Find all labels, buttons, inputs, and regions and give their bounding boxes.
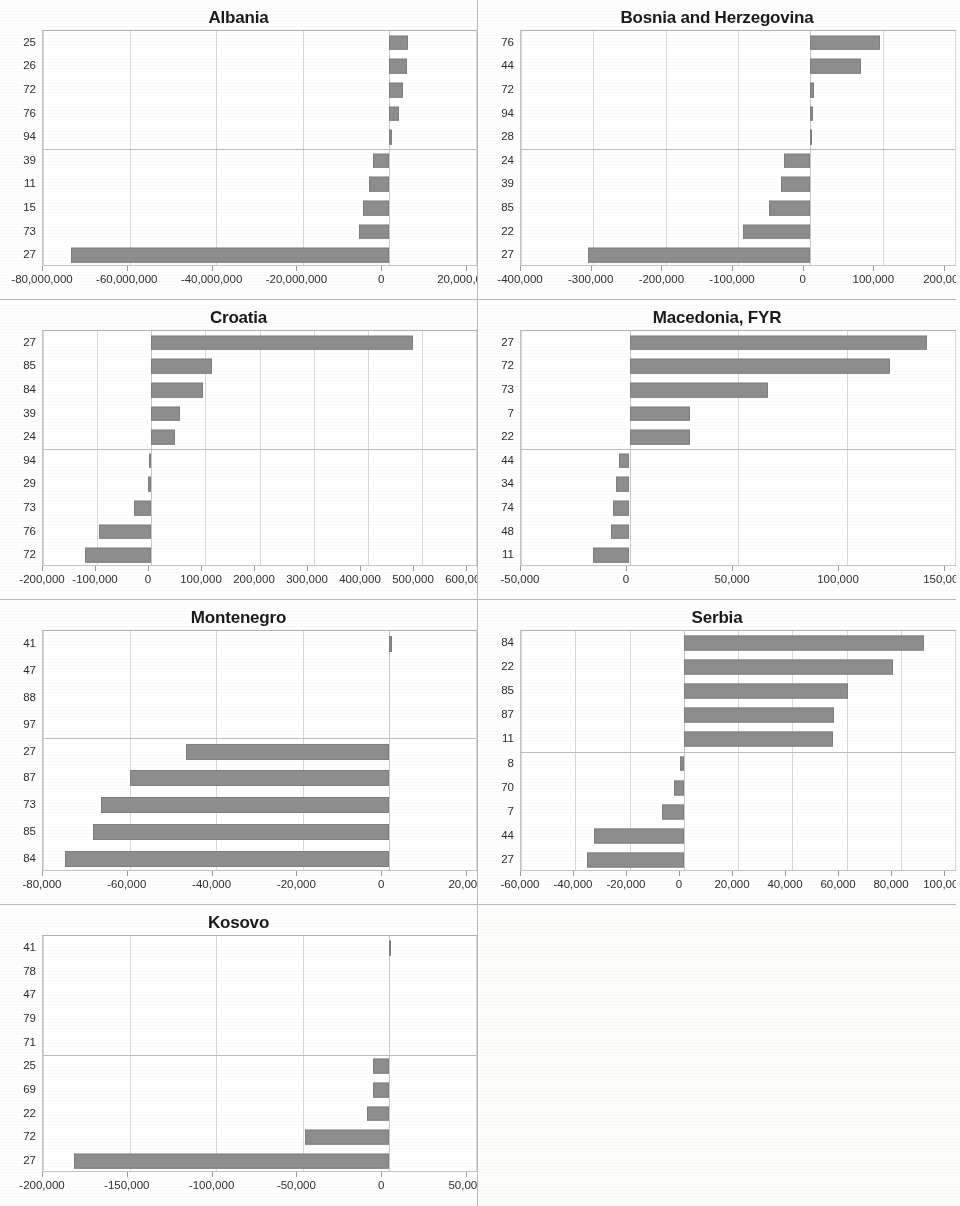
bar bbox=[630, 406, 691, 421]
axis-tick-label: -20,000 bbox=[277, 878, 316, 890]
gridline-vertical bbox=[260, 331, 261, 565]
axis-tick-mark bbox=[591, 266, 592, 271]
bar bbox=[367, 1106, 390, 1121]
bar bbox=[593, 548, 630, 563]
bar bbox=[389, 130, 392, 145]
gridline-vertical bbox=[43, 331, 44, 565]
gridline-vertical bbox=[666, 31, 667, 265]
category-label: 44 bbox=[501, 454, 514, 466]
axis-tick-mark bbox=[944, 566, 945, 571]
axis-tick-mark bbox=[838, 871, 839, 876]
axis-tick-label: -80,000,000 bbox=[11, 273, 72, 285]
gridline-horizontal bbox=[521, 449, 955, 450]
plot-canvas bbox=[42, 330, 477, 566]
bar bbox=[684, 636, 924, 651]
axis-tick-mark bbox=[626, 566, 627, 571]
bar bbox=[186, 744, 390, 760]
bar bbox=[613, 501, 629, 516]
axis-tick-mark bbox=[42, 566, 43, 571]
category-label: 27 bbox=[501, 336, 514, 348]
category-label: 34 bbox=[501, 477, 514, 489]
gridline-vertical bbox=[521, 31, 522, 265]
bar bbox=[781, 177, 811, 192]
bar bbox=[151, 430, 175, 445]
chart-title: Croatia bbox=[0, 308, 477, 328]
category-label: 85 bbox=[23, 359, 36, 371]
gridline-vertical bbox=[476, 936, 477, 1171]
plot-canvas bbox=[42, 630, 477, 871]
bar bbox=[630, 335, 927, 350]
axis-tick-mark bbox=[838, 566, 839, 571]
category-label: 27 bbox=[23, 1154, 36, 1166]
category-label: 27 bbox=[23, 248, 36, 260]
gridline-vertical bbox=[368, 331, 369, 565]
axis-tick-label: 400,000 bbox=[339, 573, 381, 585]
bar bbox=[810, 130, 812, 145]
gridline-vertical bbox=[130, 936, 131, 1171]
axis-tick-label: 0 bbox=[799, 273, 805, 285]
bar bbox=[65, 851, 390, 867]
axis-tick-mark bbox=[732, 266, 733, 271]
axis-tick-label: -200,000 bbox=[19, 1179, 64, 1191]
axis-tick-label: -150,000 bbox=[104, 1179, 149, 1191]
gridline-vertical bbox=[216, 31, 217, 265]
axis-tick-mark bbox=[296, 1172, 297, 1177]
axis-tick-label: -400,000 bbox=[497, 273, 542, 285]
bar bbox=[149, 453, 151, 468]
bar bbox=[130, 770, 390, 786]
gridline-vertical bbox=[43, 31, 44, 265]
bar bbox=[373, 1059, 389, 1074]
axis-tick-label: 200,000 bbox=[923, 273, 956, 285]
axis-tick-label: -200,000 bbox=[19, 573, 64, 585]
axis-tick-label: 0 bbox=[378, 273, 384, 285]
gridline-vertical bbox=[901, 631, 902, 870]
chart-title: Montenegro bbox=[0, 608, 477, 628]
gridline-vertical bbox=[216, 936, 217, 1171]
axis-tick-label: -300,000 bbox=[568, 273, 613, 285]
bar bbox=[389, 941, 391, 956]
bar bbox=[389, 106, 399, 121]
category-label: 73 bbox=[23, 798, 36, 810]
category-label: 69 bbox=[23, 1083, 36, 1095]
gridline-vertical bbox=[593, 31, 594, 265]
axis-tick-label: -60,000,000 bbox=[96, 273, 157, 285]
bar bbox=[148, 477, 151, 492]
zero-axis-line bbox=[389, 936, 390, 1171]
axis-tick-label: 20,000 bbox=[714, 878, 749, 890]
gridline-horizontal bbox=[43, 149, 476, 150]
gridline-vertical bbox=[130, 31, 131, 265]
chart-panel: Macedonia, FYR2772737224434744811-50,000… bbox=[478, 300, 956, 600]
bar bbox=[630, 383, 769, 398]
axis-tick-label: 20,000 bbox=[448, 878, 478, 890]
bar bbox=[85, 548, 151, 563]
gridline-vertical bbox=[521, 631, 522, 870]
axis-tick-mark bbox=[466, 1172, 467, 1177]
category-label: 87 bbox=[23, 771, 36, 783]
axis-tick-label: -200,000 bbox=[639, 273, 684, 285]
bar bbox=[616, 477, 629, 492]
axis-tick-label: -20,000 bbox=[606, 878, 645, 890]
axis-tick-mark bbox=[360, 566, 361, 571]
chart-panel: Kosovo41784779712569227227-200,000-150,0… bbox=[0, 905, 478, 1206]
axis-tick-mark bbox=[201, 566, 202, 571]
category-label: 94 bbox=[501, 107, 514, 119]
category-axis: 41784779712569227227 bbox=[0, 935, 42, 1172]
gridline-horizontal bbox=[521, 149, 955, 150]
value-axis: -400,000-300,000-200,000-100,0000100,000… bbox=[520, 266, 944, 294]
bar bbox=[769, 201, 810, 216]
category-label: 27 bbox=[23, 336, 36, 348]
bar bbox=[630, 359, 890, 374]
gridline-vertical bbox=[521, 331, 522, 565]
gridline-vertical bbox=[738, 31, 739, 265]
value-axis: -80,000-60,000-40,000-20,000020,000 bbox=[42, 871, 466, 899]
category-label: 76 bbox=[501, 36, 514, 48]
category-axis: 27858439249429737672 bbox=[0, 330, 42, 566]
gridline-horizontal bbox=[43, 449, 476, 450]
chart-plot-area: 41784779712569227227 bbox=[0, 935, 477, 1172]
gridline-vertical bbox=[883, 31, 884, 265]
axis-tick-mark bbox=[466, 871, 467, 876]
axis-tick-mark bbox=[944, 871, 945, 876]
gridline-vertical bbox=[476, 331, 477, 565]
bar bbox=[305, 1130, 390, 1145]
chart-title: Macedonia, FYR bbox=[478, 308, 956, 328]
